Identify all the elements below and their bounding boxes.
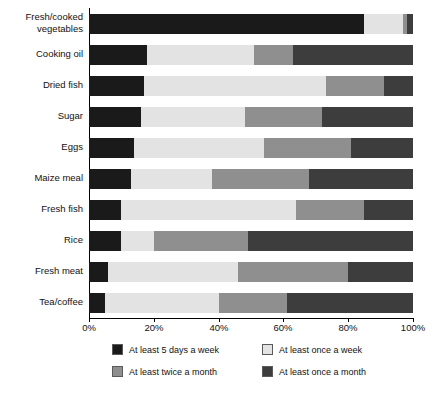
stacked-bar xyxy=(89,200,413,220)
stacked-bar xyxy=(89,138,413,158)
category-label: Dried fish xyxy=(0,79,83,91)
bar-segment xyxy=(351,138,413,158)
bar-segment xyxy=(89,293,105,313)
category-label: Tea/coffee xyxy=(0,296,83,308)
bar-segment xyxy=(212,169,309,189)
bar-segment xyxy=(326,76,384,96)
bar-segment xyxy=(89,262,108,282)
bar-segment xyxy=(121,231,153,251)
bar-segment xyxy=(141,107,245,127)
x-axis-tick-label: 60% xyxy=(273,322,292,333)
bar-segment xyxy=(407,14,413,34)
bar-segment xyxy=(105,293,218,313)
legend-swatch-icon xyxy=(112,344,123,355)
bar-segment xyxy=(264,138,351,158)
bar-segment xyxy=(287,293,413,313)
legend-item[interactable]: At least once a month xyxy=(262,366,366,377)
category-label: Rice xyxy=(0,234,83,246)
bar-row xyxy=(89,200,413,220)
bar-segment xyxy=(89,200,121,220)
bar-segment xyxy=(134,138,264,158)
bar-segment xyxy=(89,138,134,158)
x-axis-tick-label: 100% xyxy=(401,322,425,333)
legend-label: At least twice a month xyxy=(129,367,217,377)
stacked-bar xyxy=(89,107,413,127)
bar-segment xyxy=(147,45,254,65)
legend-label: At least 5 days a week xyxy=(129,345,219,355)
stacked-bar xyxy=(89,262,413,282)
bar-segment xyxy=(89,107,141,127)
stacked-bar xyxy=(89,14,413,34)
category-label: Maize meal xyxy=(0,172,83,184)
bar-segment xyxy=(293,45,413,65)
category-label: Eggs xyxy=(0,141,83,153)
bar-row xyxy=(89,169,413,189)
bar-row xyxy=(89,45,413,65)
bar-segment xyxy=(89,169,131,189)
bar-segment xyxy=(348,262,413,282)
legend-label: At least once a week xyxy=(279,345,362,355)
bar-segment xyxy=(154,231,248,251)
bar-segment xyxy=(254,45,293,65)
bar-segment xyxy=(144,76,325,96)
bar-segment xyxy=(219,293,287,313)
bar-segment xyxy=(322,107,413,127)
x-axis-tick-label: 0% xyxy=(82,322,96,333)
stacked-bar xyxy=(89,76,413,96)
x-axis-tick-label: 40% xyxy=(209,322,228,333)
stacked-bar xyxy=(89,169,413,189)
legend-item[interactable]: At least 5 days a week xyxy=(112,344,219,355)
x-axis-tick-label: 20% xyxy=(144,322,163,333)
category-label: Sugar xyxy=(0,110,83,122)
bar-segment xyxy=(131,169,212,189)
bar-row xyxy=(89,107,413,127)
bar-row xyxy=(89,14,413,34)
stacked-bar xyxy=(89,293,413,313)
bar-segment xyxy=(296,200,364,220)
legend-swatch-icon xyxy=(262,366,273,377)
bar-segment xyxy=(89,45,147,65)
stacked-bar xyxy=(89,231,413,251)
category-axis-labels: Fresh/cooked vegetablesCooking oilDried … xyxy=(0,8,83,318)
legend-swatch-icon xyxy=(112,366,123,377)
plot-area xyxy=(89,8,413,318)
bar-row xyxy=(89,262,413,282)
x-axis-tick-label: 80% xyxy=(338,322,357,333)
bar-segment xyxy=(309,169,413,189)
bar-segment xyxy=(89,76,144,96)
stacked-bar xyxy=(89,45,413,65)
category-label: Fresh fish xyxy=(0,203,83,215)
x-axis-line xyxy=(89,318,413,319)
bar-row xyxy=(89,76,413,96)
category-label: Cooking oil xyxy=(0,48,83,60)
stacked-bar-chart: Fresh/cooked vegetablesCooking oilDried … xyxy=(0,0,437,399)
bar-segment xyxy=(238,262,348,282)
bar-segment xyxy=(248,231,413,251)
category-label: Fresh/cooked vegetables xyxy=(0,11,83,34)
bar-row xyxy=(89,138,413,158)
chart-legend: At least 5 days a weekAt least once a we… xyxy=(112,344,412,388)
bar-segment xyxy=(89,231,121,251)
bar-segment xyxy=(121,200,296,220)
bar-row xyxy=(89,293,413,313)
category-label: Fresh meat xyxy=(0,265,83,277)
bar-segment xyxy=(108,262,238,282)
legend-item[interactable]: At least twice a month xyxy=(112,366,217,377)
legend-label: At least once a month xyxy=(279,367,366,377)
bar-segment xyxy=(364,14,403,34)
bar-row xyxy=(89,231,413,251)
legend-swatch-icon xyxy=(262,344,273,355)
bar-segment xyxy=(89,14,364,34)
bar-segment xyxy=(364,200,413,220)
bar-segment xyxy=(384,76,413,96)
bar-segment xyxy=(245,107,323,127)
legend-item[interactable]: At least once a week xyxy=(262,344,362,355)
